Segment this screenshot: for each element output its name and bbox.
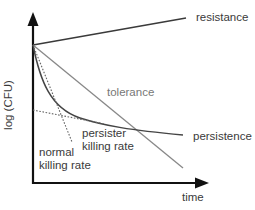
normal-label-line2: killing rate [39,159,91,172]
persister-label-line2: killing rate [82,140,134,153]
y-axis-arrow-icon [28,12,39,26]
resistance-curve [33,18,186,45]
normal-killing-rate-line [33,45,72,142]
diagram-canvas [0,0,255,210]
resistance-label: resistance [196,11,248,24]
x-axis-arrow-icon [195,178,209,189]
y-axis-label: log (CFU) [2,80,14,130]
survival-diagram: log (CFU) resistance tolerance persisten… [0,0,255,210]
tolerance-label: tolerance [107,86,154,99]
persister-killing-rate-line [33,110,105,124]
persistence-label: persistence [193,130,252,143]
persister-label-line1: persister [82,127,126,140]
normal-label-line1: normal [39,146,74,159]
x-axis-label: time [182,191,204,204]
